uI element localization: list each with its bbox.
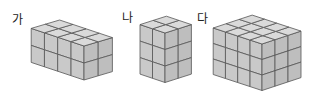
cube-face [98,55,112,76]
cuboid-figure-na [140,16,191,82]
cube-face [84,59,98,80]
cube-figures-canvas [0,0,310,100]
cuboid-figure-ga [31,20,112,80]
cuboid-figure-da [213,15,301,90]
